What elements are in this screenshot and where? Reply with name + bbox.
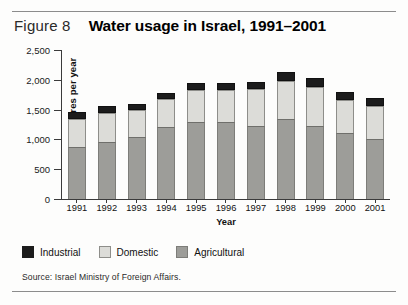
y-tick-label: 0 [45,194,50,205]
bar-segment-agricultural [157,127,175,199]
bar-segment-domestic [68,119,86,148]
bar-segment-domestic [366,106,384,139]
x-tick-label: 1995 [185,203,207,213]
stacked-bar[interactable] [306,78,324,199]
bar-segment-agricultural [217,122,235,199]
stacked-bar[interactable] [277,72,295,199]
legend-label: Domestic [117,247,159,258]
figure-number: Figure 8 [14,17,71,34]
legend-item-industrial[interactable]: Industrial [22,246,81,258]
x-tick-label: 1993 [126,203,148,213]
stacked-bar[interactable] [187,83,205,199]
x-tick-label: 1999 [304,203,326,213]
bar-segment-agricultural [68,147,86,199]
bar-segment-domestic [128,110,146,137]
legend-item-domestic[interactable]: Domestic [99,246,159,258]
y-tick-mark [54,169,61,170]
bar-slot [215,50,237,199]
bar-segment-domestic [306,87,324,126]
bar-slot [364,50,386,199]
bar-segment-domestic [277,81,295,119]
stacked-bar[interactable] [217,83,235,199]
legend-swatch-agricultural-icon [176,246,188,258]
bar-slot [245,50,267,199]
legend-label: Agricultural [194,247,244,258]
bar-slot [185,50,207,199]
stacked-bar[interactable] [68,112,86,199]
bar-slot [96,50,118,199]
bar-segment-industrial [336,92,354,100]
bar-slot [155,50,177,199]
bar-slot [334,50,356,199]
stacked-bar[interactable] [157,93,175,199]
bar-segment-industrial [277,72,295,81]
stacked-bar[interactable] [98,106,116,199]
stacked-bar[interactable] [247,82,265,199]
x-tick-label: 1998 [275,203,297,213]
y-tick-mark [54,139,61,140]
x-tick-label: 1992 [96,203,118,213]
x-axis-labels: 1991199219931994199519961997199819992000… [62,203,390,213]
stacked-bar[interactable] [366,98,384,199]
bar-segment-agricultural [128,137,146,199]
bar-series-group [62,50,390,199]
legend-label: Industrial [40,247,81,258]
y-tick-label: 1,500 [26,104,50,115]
bar-segment-industrial [366,98,384,106]
y-tick-mark [54,110,61,111]
bar-slot [126,50,148,199]
bar-segment-agricultural [277,119,295,199]
top-rule [12,11,396,12]
bar-slot [304,50,326,199]
stacked-bar[interactable] [128,104,146,199]
plot-area: 05001,0001,5002,0002,500 [62,50,390,199]
bottom-rule [12,291,396,292]
y-tick-label: 2,000 [26,74,50,85]
stacked-bar[interactable] [336,92,354,199]
figure-header: Figure 8 Water usage in Israel, 1991–200… [14,17,326,35]
x-tick-label: 1994 [155,203,177,213]
bar-slot [275,50,297,199]
bar-segment-industrial [247,82,265,89]
bar-segment-industrial [306,78,324,87]
legend-item-agricultural[interactable]: Agricultural [176,246,244,258]
y-tick-label: 2,500 [26,45,50,56]
bar-segment-domestic [217,90,235,122]
y-tick-mark [54,50,61,51]
y-tick-label: 500 [34,164,50,175]
chart-legend: IndustrialDomesticAgricultural [22,246,255,258]
figure-panel: Figure 8 Water usage in Israel, 1991–200… [0,0,408,305]
bar-segment-agricultural [306,126,324,199]
x-axis-title: Year [62,217,390,227]
bar-segment-agricultural [187,122,205,199]
bar-segment-domestic [336,100,354,133]
bar-slot [66,50,88,199]
bar-segment-agricultural [247,126,265,199]
bar-segment-domestic [98,113,116,143]
figure-title: Water usage in Israel, 1991–2001 [89,17,326,35]
bar-segment-industrial [217,83,235,90]
x-tick-label: 1997 [245,203,267,213]
bar-segment-domestic [157,99,175,128]
bar-segment-domestic [187,90,205,122]
bar-segment-industrial [187,83,205,90]
bar-segment-domestic [247,89,265,126]
bar-segment-agricultural [366,139,384,199]
x-tick-label: 2000 [334,203,356,213]
bar-segment-agricultural [98,142,116,199]
legend-swatch-domestic-icon [99,246,111,258]
x-tick-label: 1996 [215,203,237,213]
legend-swatch-industrial-icon [22,246,34,258]
y-tick-mark [54,80,61,81]
y-tick-mark [54,199,61,200]
x-tick-label: 2001 [364,203,386,213]
x-tick-label: 1991 [66,203,88,213]
source-note: Source: Israel Ministry of Foreign Affai… [22,272,181,282]
y-tick-label: 1,000 [26,134,50,145]
bar-segment-agricultural [336,133,354,199]
